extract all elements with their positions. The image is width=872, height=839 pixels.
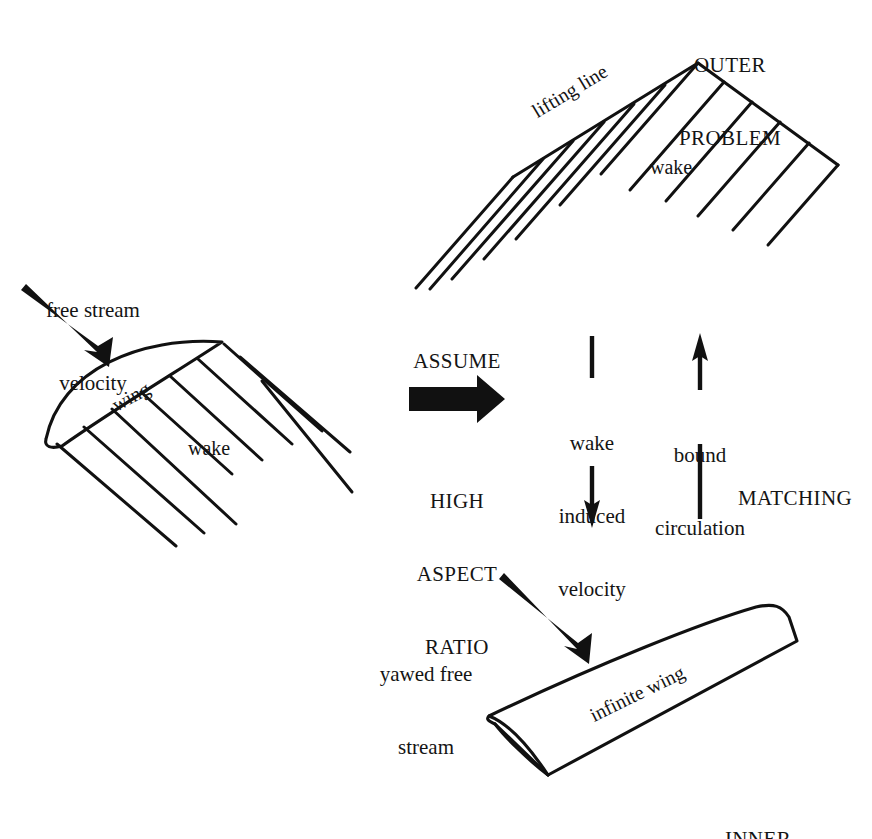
bound-circulation-line2: circulation bbox=[633, 516, 767, 540]
yawed-free-stream-label: yawed free stream bbox=[356, 613, 496, 808]
assumption-line2: ASPECT bbox=[394, 562, 520, 586]
bound-circulation-line1: bound bbox=[633, 443, 767, 467]
lifting-line-matched-asymptotics-diagram: OUTER PROBLEM lifting line wake free str… bbox=[0, 0, 872, 839]
yawed-free-stream-line1: yawed free bbox=[356, 662, 496, 686]
outer-wake-label: wake bbox=[650, 156, 692, 179]
assumption-line1: HIGH bbox=[394, 489, 520, 513]
yawed-free-stream-line2: stream bbox=[356, 735, 496, 759]
assume-label: ASSUME bbox=[394, 349, 520, 373]
inner-problem-heading: INNER PROBLEM bbox=[654, 778, 862, 839]
matching-label: MATCHING bbox=[738, 486, 852, 510]
outer-problem-heading: OUTER PROBLEM bbox=[604, 4, 856, 199]
finite-wake-label: wake bbox=[188, 437, 230, 460]
outer-problem-heading-line2: PROBLEM bbox=[604, 126, 856, 150]
free-stream-velocity-label: free stream velocity bbox=[24, 249, 162, 444]
assume-block-arrow bbox=[409, 375, 505, 423]
outer-problem-heading-line1: OUTER bbox=[604, 53, 856, 77]
free-stream-label-line1: free stream bbox=[24, 298, 162, 322]
inner-problem-heading-line1: INNER bbox=[654, 827, 862, 839]
